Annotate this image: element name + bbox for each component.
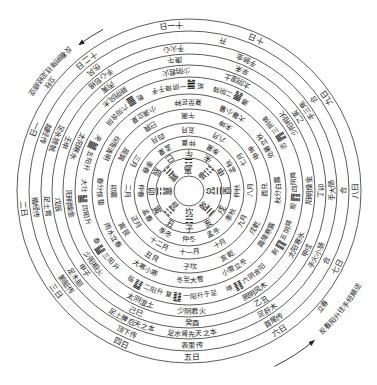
earthly-branch-label: 巳 [163,152,176,165]
meridian-label: 手大肠 [327,180,336,201]
ring-labels: 一日二日三日四日五日六日七日八日九日十日十一日十二日越经传循经传腑脏传顶下传表里… [19,20,360,361]
transmission-label-text: 合 [338,186,347,194]
earthly-branch-label: 酉 [221,186,231,195]
earthly-branch-label: 亥 [202,217,215,230]
hexagram-icon: ䷗ [172,290,182,302]
day-label: 一日 [28,120,42,138]
day-label-text: 十日 [247,32,265,48]
trigram-symbol: ☲ [184,157,193,168]
season-label: 仲春 [136,184,145,198]
month-label: 十一月 [179,247,201,257]
season-label-text: 仲夏 [181,138,195,147]
month-label-text: 四月 [149,131,165,145]
trigram-icon: ☳ [155,187,166,196]
branch-trigram-label-text: 亥乾 [219,248,236,263]
direction-arrow-icon [79,29,103,44]
solar-term-label: 秋分白露 [273,176,283,205]
trigram-symbol: ☵ [185,213,194,224]
branch-trigram-label-text: 寅艮 [117,221,132,238]
earthly-branch-label-text: 寅 [150,204,163,217]
day-label-text: 八日 [350,183,359,199]
hexagram-label: 大壮䷡四阳升 [78,179,94,226]
hexagram-icon: ䷡ [78,194,90,204]
branch-trigram-label: 申坤 [246,144,261,161]
six-qi-label-text: 少阴君火 [177,305,207,315]
month-label: 二月 [123,184,131,198]
six-qi-label-text: 阳明燥金 [304,175,314,205]
direction-arrow-icon [275,340,315,366]
meridian-label-text: 手火心 [163,44,185,55]
branch-trigram-label: 寅艮 [117,221,132,238]
season-label: 仲秋 [232,183,242,197]
branch-trigram-label: 午离 [181,111,195,120]
earthly-branch-label-text: 辰 [150,166,163,179]
day-label-text: 四日 [112,335,130,350]
stem-branch-label: 癸酉 [185,318,199,327]
earthly-branch-label: 戌 [215,203,228,216]
solar-term-label-text: 秋分白露 [273,176,283,205]
month-label-text: 正月 [129,214,143,230]
solar-term-label: 冬至大雪 [175,275,204,285]
day-label: 五日 [184,352,200,361]
branch-trigram-label: 亥乾 [219,248,236,263]
branch-trigram-label-text: 申坤 [246,144,261,161]
hexagram-caption: 三阴降 [260,114,280,135]
branch-trigram-label-text: 酉兑 [259,183,268,197]
day-label-text: 二日 [19,200,30,217]
earthly-branch-label: 辰 [150,166,163,179]
stem-branch-label-text: 戊辰 [53,198,64,214]
day-label-text: 五日 [184,352,200,361]
earthly-branch-label-text: 巳 [163,152,176,165]
branch-trigram-label-text: 巳巽 [142,119,159,134]
earthly-branch-label: 子 [185,223,194,233]
month-label: 五月 [181,125,195,133]
hexagram-name: 复 [164,289,173,299]
stem-branch-label-text: 庚午 [167,55,182,65]
hexagram-name: 姤 [196,82,204,92]
month-label-text: 七月 [235,152,249,169]
transmission-label: 合 [321,255,333,266]
earthly-branch-label-text: 亥 [202,217,215,230]
month-label-text: 三月 [129,153,143,169]
branch-trigram-label: 子坎 [182,261,196,270]
month-label: 八月 [246,183,254,197]
ring-boundary-circle [52,54,326,328]
meridian-label-text: 足土胃 [42,195,53,217]
hexagram-caption: 五阴降 [279,219,294,242]
ring-boundary-circle [75,77,303,305]
season-label: 仲冬 [182,234,196,244]
transmission-label-text: 开 [219,36,228,46]
stems-branches-ring: 壬申戊辰甲子己巳癸酉乙丑甲戌丁卯乙亥辛未庚午丙寅 [53,55,325,327]
day-label: 四日 [112,335,130,350]
earthly-branch-label: 未 [201,152,214,165]
hexagram-caption: 一阳升于足 [183,289,219,301]
meridian-cycle-wheel-diagram: 一日二日三日四日五日六日七日八日九日十日十一日十二日越经传循经传腑脏传顶下传表里… [0,0,377,385]
branch-trigrams-ring: 子坎丑艮寅艮卯震辰巽巳巽午离未坤申坤酉兑戌乾亥乾 [109,111,268,270]
season-label-text: 仲春 [136,184,145,198]
hexagram-icon: ䷫ [186,80,195,91]
day-label: 九日 [318,89,334,107]
season-label-text: 仲秋 [232,183,242,197]
solar-term-label-text: 冬至大雪 [175,275,204,285]
month-label: 七月 [235,152,249,169]
earthly-branch-label-text: 申 [215,165,228,178]
month-label-text: 五月 [181,125,195,133]
transmission-label-text: 合 [321,255,333,266]
month-label: 三月 [129,153,143,169]
earthly-branch-label-text: 子 [185,223,194,233]
solar-term-label: 春分惊蛰 [95,177,105,206]
trigram-symbol: ☳ [155,187,166,196]
day-label: 八日 [350,183,359,199]
transmission-label: 表里传 [181,340,203,350]
earthly-branch-label-text: 卯 [146,187,156,196]
solar-term-label-text: 春分惊蛰 [95,177,105,206]
season-label: 仲夏 [181,138,195,147]
earthly-branch-label-text: 午 [184,148,193,158]
stem-branch-label-text: 癸酉 [185,318,199,327]
earthly-branch-label: 寅 [150,204,163,217]
outer-annotations: 反看阴降往足经顺逆反看阳升往手经顺逆立秋立春 [26,29,363,366]
month-label: 四月 [149,131,165,145]
solar-term-label-text: 夏至芒种 [174,97,203,107]
month-label-text: 十一月 [179,247,201,257]
six-qi-label: 阳明燥金 [304,175,314,205]
